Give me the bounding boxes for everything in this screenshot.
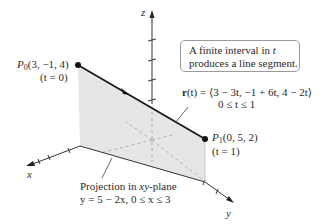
x-axis-arrow-icon [26, 161, 35, 166]
point-p1-param: (t = 1) [212, 145, 240, 157]
equation-leader-line [176, 107, 188, 122]
point-p1-dot [202, 136, 208, 142]
equation-domain: 0 ≤ t ≤ 1 [218, 98, 255, 110]
projection-title-suffix: -plane [149, 180, 176, 192]
z-axis [148, 14, 156, 104]
callout-line-2: produces a line segment. [189, 57, 299, 70]
p1-coords: (0, 5, 2) [223, 131, 258, 143]
callout-text-1: A finite interval in [189, 44, 273, 56]
projection-plane [78, 65, 205, 182]
y-axis-label: y [226, 207, 231, 219]
projection-title-prefix: Projection in [80, 180, 139, 192]
x-axis-label: x [27, 168, 32, 180]
projection-title-var: xy [139, 180, 149, 192]
point-p0-param: (t = 0) [40, 71, 68, 83]
projection-title: Projection in xy-plane [80, 180, 177, 192]
projection-equation: y = 5 − 2x, 0 ≤ x ≤ 3 [80, 193, 170, 205]
callout-var: t [273, 44, 276, 56]
z-axis-arrow-icon [150, 10, 155, 18]
p1-name: P [212, 131, 219, 143]
p0-coords: (3, −1, 4) [28, 58, 69, 70]
equation-body: (t) = ⟨3 − 3t, −1 + 6t, 4 − 2t⟩ [187, 86, 312, 98]
vector-equation: r(t) = ⟨3 − 3t, −1 + 6t, 4 − 2t⟩ [182, 86, 312, 98]
p0-name: P [17, 58, 24, 70]
z-axis-label: z [141, 6, 145, 18]
callout-line-1: A finite interval in t [189, 44, 299, 57]
projection-leader-line [102, 158, 112, 178]
x-axis [30, 146, 80, 165]
y-axis-arrow-icon [226, 196, 234, 203]
callout-box: A finite interval in t produces a line s… [180, 40, 300, 72]
point-p0-dot [75, 62, 81, 68]
